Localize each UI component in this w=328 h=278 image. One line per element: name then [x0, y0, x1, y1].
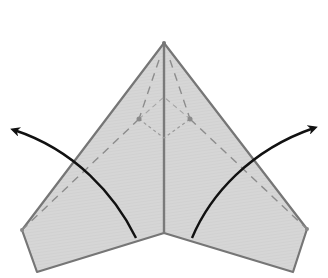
- right-corner-dot: [305, 227, 309, 231]
- apex-dot: [162, 41, 166, 45]
- right-reference-dot: [188, 117, 193, 122]
- origami-diagram: [0, 0, 328, 278]
- left-reference-dot: [137, 117, 142, 122]
- left-corner-dot: [20, 228, 24, 232]
